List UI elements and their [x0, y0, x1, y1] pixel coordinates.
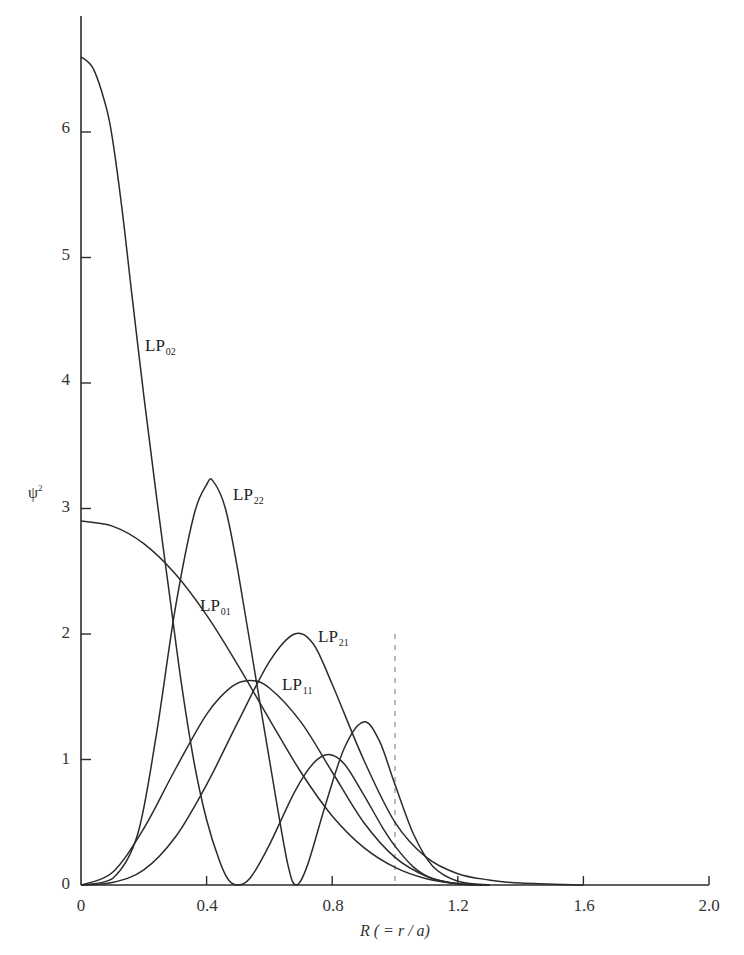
x-axis-title-var: R	[360, 922, 370, 939]
x-tick-label-2.0: 2.0	[684, 896, 734, 916]
x-tick-label-0.4: 0.4	[182, 896, 232, 916]
curve-label-lp02-main: LP	[145, 336, 165, 355]
y-tick-label-0: 0	[40, 874, 70, 894]
curve-label-lp02: LP02	[145, 336, 176, 357]
curve-label-lp02-sub: 02	[166, 346, 176, 357]
curve-label-lp11-main: LP	[282, 675, 302, 694]
y-tick-label-3: 3	[40, 497, 70, 517]
curve-label-lp22-sub: 22	[254, 495, 264, 506]
curve-lp02	[81, 57, 489, 885]
axes	[81, 16, 709, 885]
curve-label-lp01-sub: 01	[221, 606, 231, 617]
y-axis-title: ψ2	[28, 483, 43, 502]
x-tick-label-1.6: 1.6	[559, 896, 609, 916]
curve-label-lp22: LP22	[233, 485, 264, 506]
curve-label-lp21-sub: 21	[339, 637, 349, 648]
x-tick-label-1.2: 1.2	[433, 896, 483, 916]
curve-label-lp01: LP01	[200, 596, 231, 617]
curve-label-lp11: LP11	[282, 675, 312, 696]
curve-label-lp01-main: LP	[200, 596, 220, 615]
curve-lp21	[81, 633, 583, 885]
x-tick-label-0: 0	[56, 896, 106, 916]
y-axis-title-sup: 2	[38, 483, 43, 493]
x-axis-title: R ( = r / a)	[360, 922, 430, 940]
y-tick-label-5: 5	[40, 245, 70, 265]
y-axis-title-main: ψ	[28, 484, 38, 501]
chart-plot-area	[0, 0, 744, 955]
y-tick-label-1: 1	[40, 749, 70, 769]
curve-label-lp21: LP21	[318, 627, 349, 648]
curves	[81, 57, 583, 885]
curve-label-lp21-main: LP	[318, 627, 338, 646]
y-tick-label-4: 4	[40, 370, 70, 390]
x-axis-title-rest: ( = r / a)	[370, 922, 430, 939]
curve-label-lp11-sub: 11	[303, 685, 313, 696]
x-tick-label-0.8: 0.8	[308, 896, 358, 916]
curve-label-lp22-main: LP	[233, 485, 253, 504]
y-tick-label-6: 6	[40, 118, 70, 138]
y-tick-label-2: 2	[40, 623, 70, 643]
